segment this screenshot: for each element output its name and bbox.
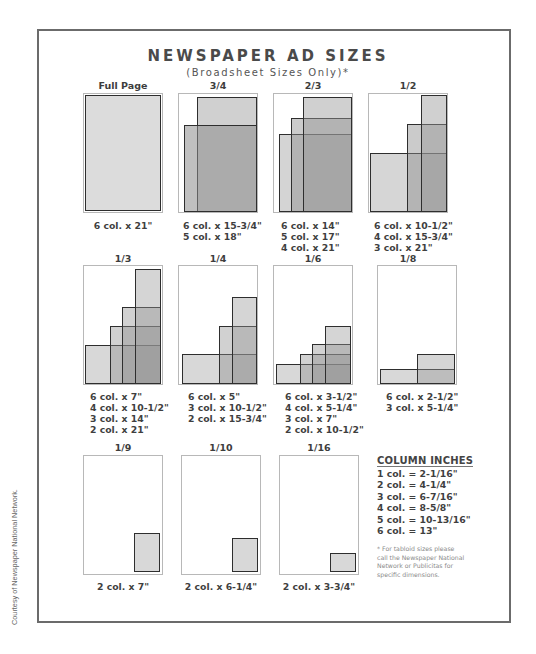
- ad-diagram-1-9: [83, 455, 163, 575]
- ad-label-3-4: 3/4: [178, 80, 258, 91]
- ad-sizes-3-4: 6 col. x 15-3/4"5 col. x 18": [183, 220, 262, 242]
- ad-sizes-1-3: 6 col. x 7"4 col. x 10-1/2"3 col. x 14"2…: [90, 391, 169, 435]
- column-inches-row: 3 col. = 6-7/16": [377, 491, 471, 502]
- page-title: NEWSPAPER AD SIZES: [0, 47, 536, 65]
- ad-sizes-1-8: 6 col. x 2-1/2"3 col. x 5-1/4": [386, 391, 458, 413]
- tabloid-footnote: * For tabloid sizes please call the News…: [377, 545, 467, 579]
- credit-line: Courtesy of Newspaper National Network.: [10, 489, 19, 625]
- column-inches-row: 2 col. = 4-1/4": [377, 479, 471, 490]
- ad-label-1-2: 1/2: [368, 80, 448, 91]
- ad-label-full-page: Full Page: [83, 80, 163, 91]
- ad-rect-2col: [330, 553, 356, 572]
- ad-diagram-full-page: [83, 93, 163, 213]
- ad-sizes-1-10: 2 col. x 6-1/4": [171, 581, 271, 592]
- ad-sizes-1-2: 6 col. x 10-1/2"4 col. x 15-3/4"3 col. x…: [374, 220, 453, 253]
- page-subtitle: (Broadsheet Sizes Only)*: [0, 67, 536, 78]
- ad-rect-4col: [303, 97, 352, 212]
- ad-label-1-8: 1/8: [368, 253, 448, 264]
- ad-diagram-1-8: [377, 265, 457, 385]
- ad-rect-2col: [135, 269, 161, 384]
- ad-diagram-1-3: [83, 265, 163, 385]
- ad-rect-2col: [232, 297, 257, 384]
- ad-label-1-4: 1/4: [178, 253, 258, 264]
- ad-sizes-full-page: 6 col. x 21": [73, 220, 173, 231]
- ad-rect-3col: [421, 95, 447, 212]
- ad-rect-2col: [232, 538, 258, 572]
- ad-rect-2col: [134, 533, 160, 572]
- ad-sizes-1-9: 2 col. x 7": [73, 581, 173, 592]
- column-inches-row: 6 col. = 13": [377, 525, 471, 536]
- ad-rect-5col: [184, 125, 257, 212]
- ad-diagram-2-3: [273, 93, 353, 213]
- ad-diagram-1-4: [178, 265, 258, 385]
- ad-diagram-1-2: [368, 93, 448, 213]
- ad-diagram-1-6: [273, 265, 353, 385]
- column-inches-row: 1 col. = 2-1/16": [377, 468, 471, 479]
- ad-label-1-9: 1/9: [83, 442, 163, 453]
- column-inches-row: 4 col. = 8-5/8": [377, 502, 471, 513]
- ad-rect-3col: [417, 354, 455, 384]
- ad-rect-6col: [85, 95, 161, 211]
- ad-sizes-1-4: 6 col. x 5"3 col. x 10-1/2"2 col. x 15-3…: [188, 391, 267, 424]
- column-inches-heading: COLUMN INCHES: [377, 455, 473, 467]
- ad-rect-2col: [325, 326, 351, 384]
- ad-diagram-3-4: [178, 93, 258, 213]
- ad-label-1-6: 1/6: [273, 253, 353, 264]
- ad-sizes-1-16: 2 col. x 3-3/4": [269, 581, 369, 592]
- ad-diagram-1-16: [279, 455, 359, 575]
- ad-sizes-1-6: 6 col. x 3-1/2"4 col. x 5-1/4"3 col. x 7…: [285, 391, 364, 435]
- ad-label-1-10: 1/10: [181, 442, 261, 453]
- ad-diagram-1-10: [181, 455, 261, 575]
- ad-sizes-2-3: 6 col. x 14"5 col. x 17"4 col. x 21": [281, 220, 340, 253]
- ad-label-2-3: 2/3: [273, 80, 353, 91]
- ad-label-1-16: 1/16: [279, 442, 359, 453]
- ad-label-1-3: 1/3: [83, 253, 163, 264]
- column-inches-list: 1 col. = 2-1/16" 2 col. = 4-1/4" 3 col. …: [377, 468, 471, 536]
- column-inches-row: 5 col. = 10-13/16": [377, 514, 471, 525]
